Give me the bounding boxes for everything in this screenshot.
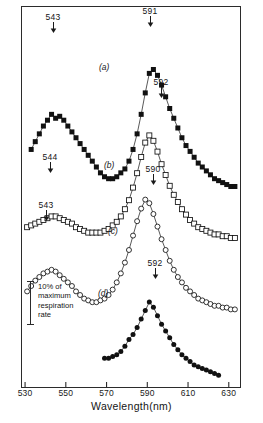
series-d — [102, 300, 221, 378]
scale-bar-glyph — [27, 281, 34, 325]
x-tick-550: 550 — [58, 388, 73, 398]
curve-tag-a: (a) — [99, 62, 109, 72]
x-axis-title: Wavelength(nm) — [0, 400, 263, 412]
x-tick-530: 530 — [18, 388, 33, 398]
x-tick-630: 630 — [221, 388, 236, 398]
curve-tag-c: (c) — [108, 226, 118, 236]
scale-bar-label: 10% of maximum respiration rate — [38, 281, 73, 320]
curve-tag-b: (b) — [104, 160, 114, 170]
series-a — [29, 67, 238, 189]
action-spectrum-figure: 530550570590610630 Wavelength(nm) 543591… — [0, 0, 263, 423]
curve-tag-d: (d) — [98, 288, 108, 298]
x-tick-570: 570 — [99, 388, 114, 398]
scale-bar: 10% of maximum respiration rate — [27, 281, 73, 325]
plot-canvas — [21, 6, 241, 388]
x-tick-590: 590 — [140, 388, 155, 398]
x-tick-610: 610 — [181, 388, 196, 398]
